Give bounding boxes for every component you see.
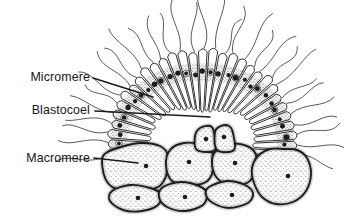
macromere-cell	[214, 125, 235, 152]
label-macromere: Macromere	[26, 151, 90, 165]
blastula-svg: Micromere Blastocoel Macromere	[0, 0, 363, 219]
macromere-cell	[109, 185, 162, 212]
macromere-cell	[159, 182, 207, 211]
macromere-cell	[206, 181, 253, 208]
figure-blastula-diagram: Micromere Blastocoel Macromere	[0, 0, 363, 219]
macromere-cell	[252, 148, 311, 204]
labels: Micromere Blastocoel Macromere	[26, 70, 90, 165]
label-micromere: Micromere	[30, 70, 90, 84]
label-blastocoel: Blastocoel	[32, 103, 90, 117]
